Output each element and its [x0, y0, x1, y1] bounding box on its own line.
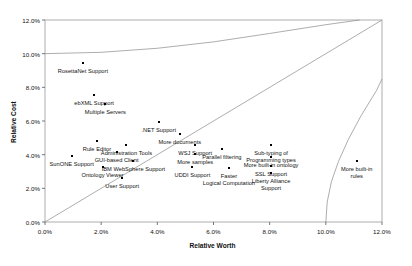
data-point-label: Liberty Alliance Support — [252, 178, 291, 191]
data-point-label: .NET Support — [141, 127, 176, 134]
data-point-marker — [228, 167, 230, 169]
x-tick-label: 4.0% — [150, 228, 164, 235]
data-point-marker — [356, 160, 358, 162]
data-point-label: User Support — [105, 183, 139, 190]
data-point-marker — [270, 156, 272, 158]
data-point-marker — [71, 155, 73, 157]
data-point-marker — [158, 121, 160, 123]
x-tick-label: 6.0% — [206, 228, 220, 235]
data-point-marker — [82, 62, 84, 64]
data-point-label: Ontology Viewer — [82, 172, 124, 179]
data-point-marker — [121, 177, 123, 179]
data-point-label: RosettaNet Support — [58, 68, 108, 75]
y-tick-label: 12.0% — [6, 17, 40, 24]
data-point-marker — [93, 94, 95, 96]
data-point-marker — [194, 153, 196, 155]
x-tick-label: 8.0% — [263, 228, 277, 235]
data-point-marker — [270, 165, 272, 167]
data-point-label: Administration Tools — [101, 150, 152, 157]
data-point-marker — [270, 172, 272, 174]
data-point-marker — [125, 144, 127, 146]
y-tick-label: 0.0% — [6, 219, 40, 226]
data-point-marker — [194, 144, 196, 146]
data-point-marker — [102, 166, 104, 168]
data-point-marker — [270, 144, 272, 146]
data-point-marker — [132, 160, 134, 162]
x-tick-label: 0.0% — [38, 228, 52, 235]
x-tick-label: 10.0% — [317, 228, 335, 235]
data-point-label: Multiple Servers — [85, 109, 126, 116]
y-tick-label: 4.0% — [6, 151, 40, 158]
y-tick-label: 2.0% — [6, 185, 40, 192]
y-tick-label: 10.0% — [6, 50, 40, 57]
y-axis-title: Relative Cost — [10, 101, 17, 143]
data-point-label: ebXML Support — [74, 100, 114, 107]
y-tick-label: 8.0% — [6, 84, 40, 91]
data-point-marker — [221, 148, 223, 150]
data-point-label: Faster Logical Computation — [203, 173, 255, 186]
data-point-marker — [191, 166, 193, 168]
relative-worth-vs-relative-cost-scatter-chart: 0.0%2.0%4.0%6.0%8.0%10.0%12.0% 0.0%2.0%4… — [0, 0, 412, 266]
x-tick-label: 12.0% — [373, 228, 391, 235]
data-point-label: SunONE Support — [50, 161, 94, 168]
data-point-label: More built-in rules — [341, 166, 373, 179]
data-point-marker — [104, 103, 106, 105]
data-point-marker — [179, 133, 181, 135]
plot-canvas — [0, 0, 412, 266]
data-point-marker — [96, 140, 98, 142]
data-point-label: More samples — [177, 159, 213, 166]
data-point-marker — [116, 151, 118, 153]
x-axis-title: Relative Worth — [190, 242, 236, 249]
x-tick-label: 2.0% — [94, 228, 108, 235]
